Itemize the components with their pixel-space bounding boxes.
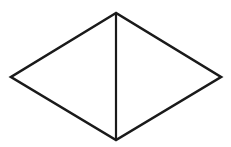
figure-canvas <box>0 0 231 147</box>
rhombus-figure <box>0 0 231 147</box>
